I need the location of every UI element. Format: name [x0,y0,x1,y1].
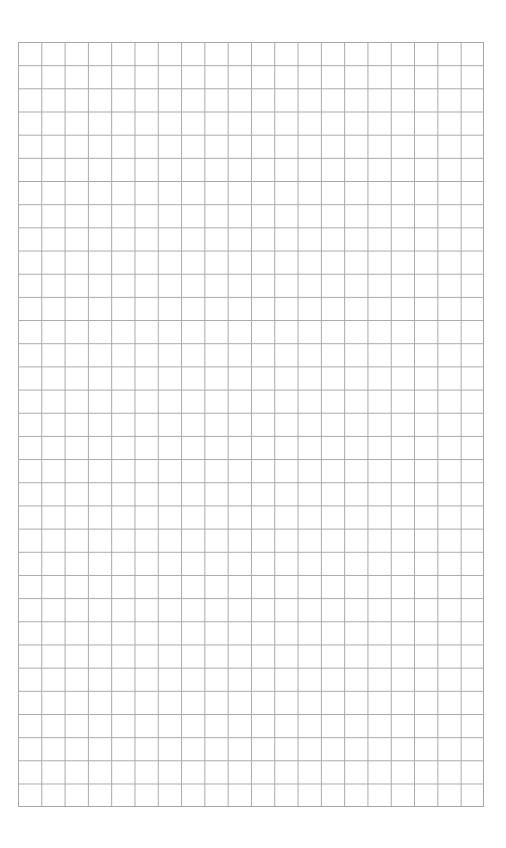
graph-paper-grid [18,42,484,807]
